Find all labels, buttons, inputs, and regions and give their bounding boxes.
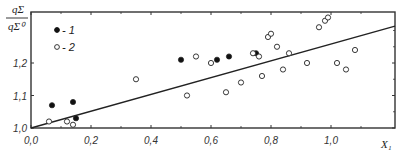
data-point-series-2 — [238, 80, 243, 85]
data-point-series-1 — [49, 103, 54, 108]
legend-marker-open — [55, 45, 60, 50]
x-tick-label: 0,8 — [264, 135, 278, 146]
data-point-series-2 — [64, 119, 69, 124]
data-point-series-2 — [280, 67, 285, 72]
legend-label-1: - 1 — [62, 24, 75, 36]
data-point-series-2 — [259, 73, 264, 78]
data-point-series-2 — [316, 25, 321, 30]
y-tick-label: 1,1 — [13, 91, 27, 102]
x-tick-label: 0,0 — [24, 135, 38, 146]
data-point-series-2 — [223, 90, 228, 95]
data-point-series-1 — [70, 99, 75, 104]
data-point-series-1 — [214, 57, 219, 62]
data-point-series-2 — [304, 60, 309, 65]
data-point-series-1 — [226, 54, 231, 59]
data-point-series-1 — [178, 57, 183, 62]
legend: - 1- 2 — [55, 24, 75, 53]
regression-line — [31, 26, 395, 128]
data-point-series-2 — [46, 119, 51, 124]
data-point-series-2 — [325, 15, 330, 20]
y-tick-label: 1,0 — [13, 123, 27, 134]
x-tick-label: 0,6 — [204, 135, 218, 146]
data-point-series-2 — [250, 51, 255, 56]
data-point-series-2 — [286, 51, 291, 56]
data-point-series-2 — [208, 60, 213, 65]
x-tick-label: 0,4 — [144, 135, 158, 146]
y-tick-label: 1,2 — [13, 58, 27, 69]
data-point-series-1 — [73, 116, 78, 121]
legend-marker-filled — [55, 28, 60, 33]
data-point-series-2 — [193, 54, 198, 59]
data-point-series-2 — [70, 122, 75, 127]
data-point-series-2 — [334, 60, 339, 65]
x-tick-label: 1,0 — [324, 135, 338, 146]
plot-border — [31, 12, 395, 128]
data-point-series-2 — [274, 44, 279, 49]
data-point-series-2 — [343, 67, 348, 72]
data-point-series-2 — [268, 31, 273, 36]
scatter-chart: 0,00,20,40,60,81,01,01,11,2 - 1- 2 qΣqΣ⁰… — [0, 0, 404, 154]
plot-frame — [31, 12, 395, 128]
data-point-series-2 — [133, 77, 138, 82]
legend-label-2: - 2 — [62, 41, 75, 53]
y-axis-label-denominator: qΣ⁰ — [8, 20, 26, 32]
data-point-series-2 — [352, 47, 357, 52]
data-point-series-2 — [184, 93, 189, 98]
y-axis-label-numerator: qΣ — [12, 3, 25, 15]
fit-line — [31, 26, 395, 128]
data-point-series-2 — [256, 54, 261, 59]
x-axis-label: X₁ — [380, 138, 392, 150]
x-tick-label: 0,2 — [84, 135, 98, 146]
